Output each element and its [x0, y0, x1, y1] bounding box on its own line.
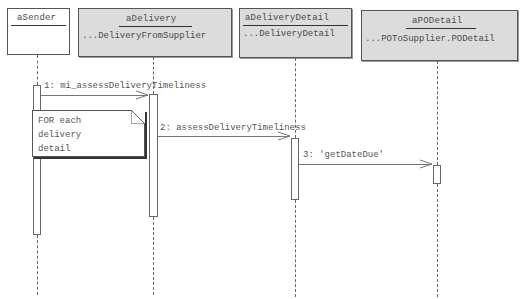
name-underline: [119, 26, 192, 27]
object-adeliverydetail[interactable]: aDeliveryDetail ...DeliveryDetail: [239, 8, 352, 58]
object-class: ...DeliveryFromSupplier: [82, 31, 206, 41]
name-underline: [11, 25, 66, 26]
message-3-line[interactable]: [299, 164, 432, 165]
activation-adeliverydetail: [291, 138, 299, 200]
object-name: aDeliveryDetail: [245, 13, 351, 23]
object-asender[interactable]: aSender: [7, 8, 70, 55]
message-3-label: 3: 'getDateDue': [303, 150, 384, 160]
name-underline: [406, 28, 476, 29]
arrowhead-icon: [420, 160, 434, 169]
object-name: aPODetail: [412, 16, 517, 26]
name-underline: [243, 25, 348, 26]
object-apodetail[interactable]: aPODetail ...POToSupplier.PODetail: [361, 10, 518, 61]
note-loop-condition[interactable]: FOR each delivery detail: [32, 110, 145, 157]
note-fold-icon: [131, 110, 145, 124]
message-2-label: 2: assessDeliveryTimeliness: [160, 123, 306, 133]
lifeline-apodetail-top: [437, 61, 438, 165]
message-1-line[interactable]: [41, 95, 148, 96]
arrowhead-icon: [278, 132, 292, 141]
lifeline-asender: [37, 235, 38, 295]
activation-apodetail: [433, 165, 441, 184]
lifeline-adeliverydetail: [295, 200, 296, 297]
lifeline-apodetail: [437, 184, 438, 297]
object-name: aSender: [17, 13, 69, 23]
object-adelivery[interactable]: aDelivery ...DeliveryFromSupplier: [78, 8, 232, 57]
arrowhead-icon: [136, 91, 150, 100]
object-class: ...POToSupplier.PODetail: [365, 34, 495, 44]
lifeline-asender-top: [37, 55, 38, 85]
message-1-label: 1: mi_assessDeliveryTimeliness: [44, 81, 206, 91]
lifeline-adelivery: [153, 217, 154, 295]
object-class: ...DeliveryDetail: [243, 29, 335, 39]
activation-adelivery: [149, 94, 158, 217]
message-2-line[interactable]: [158, 136, 290, 137]
note-text: FOR each delivery detail: [38, 114, 81, 156]
object-name: aDelivery: [126, 14, 231, 24]
activation-asender: [33, 85, 41, 235]
